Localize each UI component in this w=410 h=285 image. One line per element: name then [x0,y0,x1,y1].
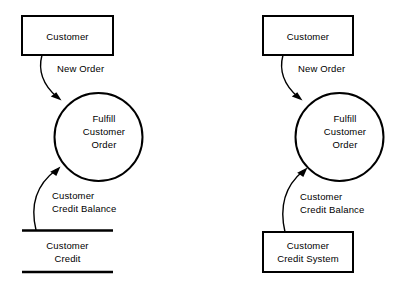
right-credit-balance-label-line2: Credit Balance [300,204,364,215]
right-variant-group: Customer New Order Fulfill Customer Orde… [263,16,384,272]
left-credit-balance-label-line2: Credit Balance [52,203,116,214]
diagram-canvas: Customer New Order Fulfill Customer Orde… [0,0,410,285]
right-process-circle[interactable]: Fulfill Customer Order [296,93,384,181]
left-variant-group: Customer New Order Fulfill Customer Orde… [22,16,143,272]
right-process-label-line2: Customer [324,126,366,137]
right-new-order-label: New Order [298,63,345,74]
data-flow-diagram: Customer New Order Fulfill Customer Orde… [0,0,410,285]
left-new-order-flow-line [41,55,57,97]
right-new-order-flow-line [282,55,298,97]
left-process-circle[interactable]: Fulfill Customer Order [55,93,143,181]
left-process-label-line3: Order [91,139,116,150]
right-customer-entity[interactable]: Customer [263,16,353,55]
left-process-label-line2: Customer [83,126,125,137]
right-credit-system-label-line2: Credit System [277,253,339,264]
right-customer-entity-label: Customer [287,31,329,42]
right-credit-system-label-line1: Customer [287,240,329,251]
left-customer-entity-label: Customer [46,31,88,42]
left-process-label-line1: Fulfill [92,113,115,124]
right-customer-credit-system-entity[interactable]: Customer Credit System [263,232,353,272]
right-process-label-line1: Fulfill [333,113,356,124]
left-credit-balance-label-line1: Customer [52,190,94,201]
left-credit-balance-arrowhead [50,167,60,177]
left-customer-entity[interactable]: Customer [22,16,113,55]
right-credit-balance-label-line1: Customer [300,191,342,202]
left-customer-credit-data-store[interactable]: Customer Credit [22,231,113,273]
right-process-label-line3: Order [332,139,357,150]
left-data-store-label-line2: Credit [54,253,80,264]
right-credit-system-box-fill [263,232,353,272]
left-new-order-label: New Order [57,63,104,74]
left-data-store-label-line1: Customer [46,240,88,251]
